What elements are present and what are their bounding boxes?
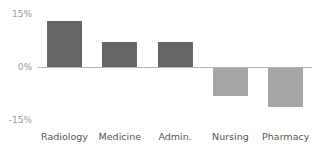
x-label-radiology: Radiology [35,131,95,142]
bar-radiology [47,21,82,67]
bar-pharmacy [268,68,303,107]
bar-admin [158,42,193,67]
bar-medicine [102,42,137,67]
bar-chart: 15% 0% -15% RadiologyMedicineAdmin.Nursi… [0,0,324,157]
bar-nursing [213,68,248,96]
x-label-medicine: Medicine [90,131,150,142]
y-tick-neg15: -15% [0,115,32,125]
zero-baseline [38,67,312,68]
x-label-admin: Admin. [145,131,205,142]
y-tick-0: 0% [0,62,32,72]
x-label-nursing: Nursing [200,131,260,142]
x-label-pharmacy: Pharmacy [256,131,316,142]
y-tick-15: 15% [0,9,32,19]
